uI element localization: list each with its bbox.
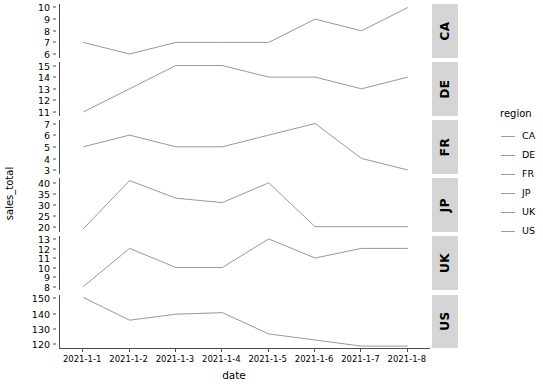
legend-item-label: CA	[522, 130, 535, 141]
legend-item-de[interactable]: DE	[500, 145, 543, 164]
y-tick-mark	[53, 298, 56, 299]
y-tick-mark	[53, 146, 56, 147]
x-tick-label: 2021-1-2	[109, 354, 148, 364]
facet-strip-label: FR	[438, 138, 452, 156]
y-tick-label: 10	[38, 262, 50, 273]
y-tick-mark	[53, 158, 56, 159]
y-tick-label: 13	[38, 83, 50, 94]
line-series-ca	[83, 8, 408, 55]
y-tick-mark	[53, 328, 56, 329]
y-tick-mark	[53, 258, 56, 259]
legend-item-label: JP	[522, 187, 531, 198]
x-tick-mark	[175, 349, 176, 352]
panel-ca	[59, 4, 431, 58]
facet-strips: CADEFRJPUKUS	[432, 4, 458, 348]
y-tick-label: 8	[44, 25, 50, 36]
legend-line-swatch	[500, 131, 516, 141]
facet-strip-label: CA	[438, 21, 452, 40]
y-tick-mark	[53, 170, 56, 171]
y-tick-mark	[53, 226, 56, 227]
y-tick-label: 25	[38, 211, 50, 222]
y-tick-label: 14	[38, 72, 50, 83]
legend-item-fr[interactable]: FR	[500, 164, 543, 183]
x-tick-label: 2021-1-6	[295, 354, 334, 364]
y-tick-mark	[53, 277, 56, 278]
x-tick-mark	[360, 349, 361, 352]
facet-strip-label: JP	[438, 198, 452, 212]
y-tick-mark	[53, 54, 56, 55]
x-tick-mark	[314, 349, 315, 352]
y-tick-mark	[53, 248, 56, 249]
y-tick-label: 13	[38, 234, 50, 245]
line-series-us	[83, 297, 408, 346]
y-tick-mark	[53, 313, 56, 314]
facet-strip-ca: CA	[432, 4, 458, 58]
y-tick-label: 120	[32, 339, 50, 350]
x-tick-label: 2021-1-5	[248, 354, 287, 364]
y-tick-label: 3	[44, 165, 50, 176]
legend-entries: CADEFRJPUKUS	[500, 126, 543, 240]
y-tick-mark	[53, 100, 56, 101]
y-tick-label: 35	[38, 189, 50, 200]
legend-item-us[interactable]: US	[500, 221, 543, 240]
y-tick-mark	[53, 267, 56, 268]
y-tick-label: 30	[38, 200, 50, 211]
line-series-jp	[83, 181, 408, 229]
y-tick-label: 40	[38, 178, 50, 189]
facet-strip-label: US	[438, 312, 452, 331]
facet-strip-label: DE	[438, 79, 452, 98]
legend-line-swatch	[500, 150, 516, 160]
panel-jp	[59, 178, 431, 232]
y-tick-mark	[53, 65, 56, 66]
line-series-fr	[83, 124, 408, 171]
legend-item-label: UK	[522, 206, 535, 217]
facet-strip-de: DE	[432, 62, 458, 116]
y-tick-mark	[53, 194, 56, 195]
x-tick-label: 2021-1-4	[202, 354, 241, 364]
x-tick-label: 2021-1-1	[63, 354, 102, 364]
x-axis-title: date	[0, 369, 468, 381]
legend-line-swatch	[500, 207, 516, 217]
y-tick-mark	[53, 88, 56, 89]
y-tick-mark	[53, 42, 56, 43]
y-tick-mark	[53, 19, 56, 20]
y-tick-label: 15	[38, 60, 50, 71]
line-series-de	[83, 66, 408, 113]
y-tick-label: 9	[44, 272, 50, 283]
panel-us	[59, 295, 431, 349]
panel-de	[59, 62, 431, 116]
facet-panels	[59, 4, 430, 348]
x-tick-mark	[221, 349, 222, 352]
y-tick-mark	[53, 216, 56, 217]
facet-strip-jp: JP	[432, 178, 458, 232]
y-tick-label: 140	[32, 308, 50, 319]
legend: region CADEFRJPUKUS	[500, 108, 543, 240]
chart-root: sales_total 6789101112131415345672025303…	[0, 0, 543, 387]
facet-strip-fr: FR	[432, 120, 458, 174]
facet-strip-us: US	[432, 295, 458, 349]
y-tick-label: 4	[44, 153, 50, 164]
y-tick-mark	[53, 77, 56, 78]
y-tick-label: 7	[44, 37, 50, 48]
legend-item-label: US	[522, 225, 535, 236]
y-tick-label: 20	[38, 221, 50, 232]
y-tick-label: 6	[44, 49, 50, 60]
y-tick-label: 11	[38, 107, 50, 118]
panel-uk	[59, 236, 431, 290]
legend-item-label: DE	[522, 149, 535, 160]
y-tick-label: 5	[44, 141, 50, 152]
y-tick-label: 9	[44, 14, 50, 25]
x-tick-mark	[268, 349, 269, 352]
panel-fr	[59, 120, 431, 174]
x-tick-label: 2021-1-8	[388, 354, 427, 364]
y-tick-mark	[53, 239, 56, 240]
y-tick-label: 10	[38, 2, 50, 13]
x-tick-mark	[129, 349, 130, 352]
legend-line-swatch	[500, 226, 516, 236]
legend-item-jp[interactable]: JP	[500, 183, 543, 202]
legend-item-uk[interactable]: UK	[500, 202, 543, 221]
legend-line-swatch	[500, 169, 516, 179]
legend-item-ca[interactable]: CA	[500, 126, 543, 145]
y-tick-mark	[53, 123, 56, 124]
facet-strip-label: UK	[438, 253, 452, 273]
